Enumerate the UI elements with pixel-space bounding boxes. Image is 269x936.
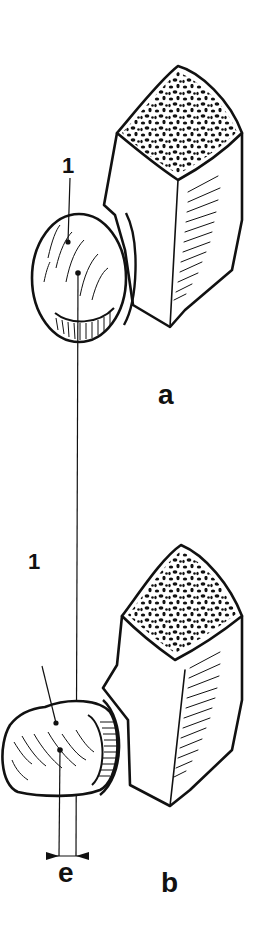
point-1-a — [65, 239, 70, 244]
point-1-b — [53, 720, 58, 725]
panel-b: 1 e b — [2, 545, 242, 898]
figure-canvas: 1 a — [0, 0, 269, 936]
panel-label-b: b — [161, 867, 178, 898]
panel-a: 1 a — [32, 66, 242, 410]
bone-block-b — [103, 545, 242, 806]
panel-label-a: a — [158, 379, 174, 410]
dimension-label-e: e — [58, 857, 74, 888]
callout-1-b: 1 — [28, 549, 40, 574]
callout-1-a: 1 — [62, 153, 74, 178]
